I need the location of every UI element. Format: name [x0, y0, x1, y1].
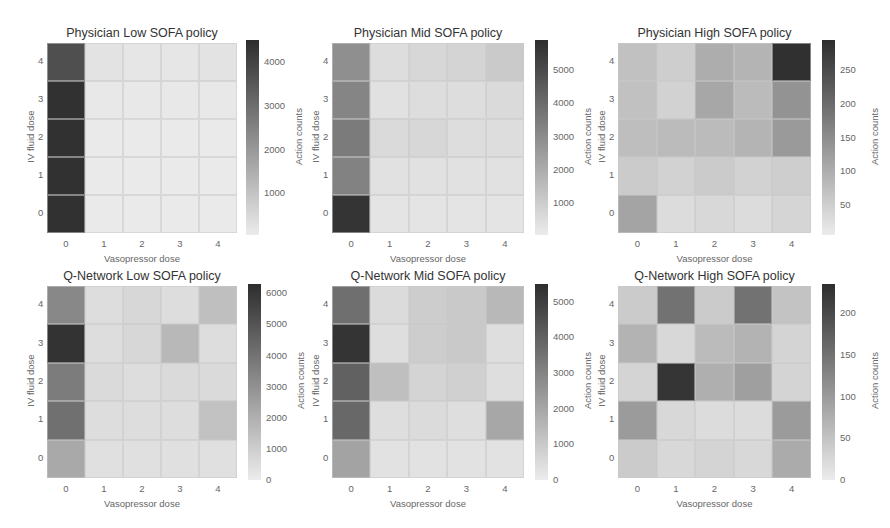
heatmap-cell: [618, 286, 657, 324]
heatmap-cell: [123, 157, 161, 195]
x-tick-label: 0: [635, 238, 640, 249]
heatmap-cell: [161, 440, 199, 478]
heatmap-cell: [772, 119, 811, 157]
heatmap-cell: [447, 363, 485, 401]
heatmap-cell: [161, 157, 199, 195]
heatmap-cell: [85, 119, 123, 157]
heatmap-cell: [85, 401, 123, 439]
y-tick-label: 1: [38, 413, 43, 424]
colorbar-tick-label: 4000: [553, 331, 574, 342]
colorbar-tick-label: 200: [840, 98, 856, 109]
colorbar-tick-label: 2000: [553, 403, 574, 414]
heatmap-cell: [370, 43, 408, 81]
heatmap-cell: [370, 324, 408, 362]
y-tick-label: 3: [323, 93, 328, 104]
heatmap-cell: [47, 324, 85, 362]
colorbar-tick-label: 1000: [553, 197, 574, 208]
heatmap-cell: [370, 157, 408, 195]
heatmap-cell: [199, 440, 237, 478]
heatmap-cell: [161, 81, 199, 119]
colorbar-tick-label: 100: [840, 165, 856, 176]
heatmap-cell: [370, 195, 408, 233]
heatmap-cell: [772, 440, 811, 478]
heatmap-cell: [123, 363, 161, 401]
y-tick-label: 4: [323, 55, 328, 66]
colorbar-tick-label: 250: [840, 64, 856, 75]
x-axis-label: Vasopressor dose: [677, 253, 753, 264]
heatmap-cell: [409, 157, 447, 195]
heatmap-cell: [486, 157, 524, 195]
colorbar-tick-label: 150: [840, 132, 856, 143]
colorbar: [822, 40, 835, 235]
heatmap-cell: [332, 195, 370, 233]
heatmap-cell: [199, 286, 237, 324]
heatmap-cell: [123, 119, 161, 157]
heatmap-cell: [332, 43, 370, 81]
heatmap-cell: [447, 81, 485, 119]
heatmap-cell: [332, 401, 370, 439]
y-tick-label: 2: [38, 375, 43, 386]
colorbar: [248, 284, 261, 480]
y-tick-label: 3: [38, 93, 43, 104]
x-tick-label: 4: [502, 483, 507, 494]
heatmap-cell: [734, 440, 773, 478]
y-tick-label: 3: [38, 337, 43, 348]
heatmap-cell: [199, 195, 237, 233]
heatmap-cell: [85, 43, 123, 81]
heatmap-cell: [772, 195, 811, 233]
heatmap-cell: [618, 157, 657, 195]
colorbar: [535, 284, 548, 480]
colorbar-label: Action counts: [293, 96, 304, 176]
heatmap-cell: [618, 401, 657, 439]
y-tick-label: 0: [609, 452, 614, 463]
colorbar-tick-label: 1000: [264, 187, 285, 198]
y-axis-label: IV fluid dose: [25, 102, 36, 172]
x-tick-label: 4: [215, 238, 220, 249]
x-tick-label: 2: [139, 483, 144, 494]
heatmap-cell: [657, 81, 696, 119]
x-tick-label: 2: [425, 238, 430, 249]
heatmap-cell: [332, 81, 370, 119]
colorbar-label: Action counts: [869, 341, 880, 421]
heatmap-cell: [447, 157, 485, 195]
x-tick-label: 4: [789, 238, 794, 249]
heatmap-cell: [657, 324, 696, 362]
heatmap-cell: [47, 157, 85, 195]
heatmap-cell: [486, 43, 524, 81]
x-tick-label: 0: [63, 238, 68, 249]
heatmap-cell: [734, 157, 773, 195]
heatmap-cell: [695, 401, 734, 439]
heatmap-cell: [161, 43, 199, 81]
x-tick-label: 1: [673, 238, 678, 249]
heatmap-cell: [734, 324, 773, 362]
x-tick-label: 0: [635, 483, 640, 494]
heatmap-cell: [199, 401, 237, 439]
heatmap-cell: [695, 324, 734, 362]
heatmap-cell: [161, 401, 199, 439]
heatmap-cell: [657, 440, 696, 478]
heatmap-grid: [618, 43, 811, 233]
heatmap-cell: [772, 43, 811, 81]
x-axis-label: Vasopressor dose: [390, 498, 466, 509]
colorbar-tick-label: 50: [840, 199, 851, 210]
y-tick-label: 2: [38, 131, 43, 142]
x-tick-label: 1: [673, 483, 678, 494]
heatmap-cell: [734, 195, 773, 233]
colorbar-tick-label: 4000: [553, 97, 574, 108]
x-tick-label: 2: [425, 483, 430, 494]
heatmap-cell: [486, 119, 524, 157]
colorbar-tick-label: 1000: [266, 443, 287, 454]
heatmap-cell: [618, 119, 657, 157]
heatmap-cell: [695, 157, 734, 195]
y-tick-label: 4: [609, 298, 614, 309]
x-tick-label: 1: [387, 238, 392, 249]
colorbar-tick-label: 4000: [264, 56, 285, 67]
heatmap-cell: [409, 440, 447, 478]
heatmap-cell: [772, 324, 811, 362]
x-tick-label: 3: [177, 238, 182, 249]
heatmap-cell: [85, 440, 123, 478]
heatmap-cell: [618, 195, 657, 233]
y-tick-label: 4: [609, 55, 614, 66]
colorbar-label: Action counts: [869, 96, 880, 176]
heatmap-cell: [657, 119, 696, 157]
